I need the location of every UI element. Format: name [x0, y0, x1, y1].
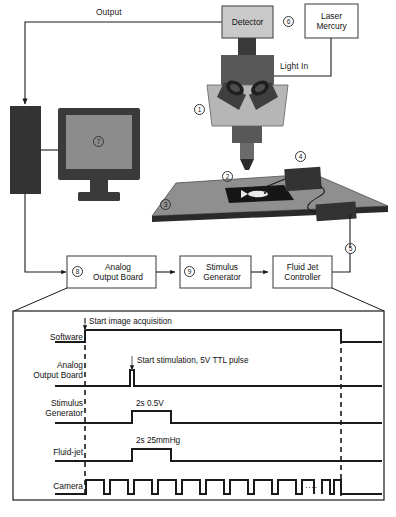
callout-number-3: 3: [160, 199, 171, 210]
timing-row-label-stimulus-generator: Stimulus Generator: [3, 399, 83, 419]
callout-number-1: 1: [194, 104, 205, 115]
timing-row-label-fluid-jet: Fluid-jet: [3, 448, 83, 458]
laser-mercury-box: [305, 4, 358, 38]
callout-wedge: [14, 288, 384, 311]
figure-canvas: Output Detector 6 Laser Mercury Light In…: [0, 0, 396, 517]
callout-number-8: 8: [72, 266, 83, 277]
annotation-stimulus-amplitude: 2s 0.5V: [136, 399, 164, 408]
annotation-start-image-acquisition: Start image acquisition: [89, 317, 172, 326]
light-in-label: Light In: [280, 62, 308, 72]
callout-number-2: 2: [222, 171, 233, 182]
callout-number-4: 4: [295, 151, 306, 162]
monitor: [58, 108, 140, 201]
annotation-fluid-jet-amplitude: 2s 25mmHg: [136, 436, 180, 445]
microscope-assembly: [207, 38, 288, 170]
detector-box: [222, 6, 273, 38]
timing-row-label-software: Software: [3, 333, 83, 343]
computer-tower: [10, 106, 66, 272]
flow-box-fluid-jet-controller: [273, 256, 332, 288]
output-label: Output: [96, 8, 176, 18]
callout-number-5: 5: [345, 243, 356, 254]
callout-number-6: 6: [283, 16, 294, 27]
annotation-camera-ellipsis: ....: [305, 481, 318, 490]
callout-number-9: 9: [184, 266, 195, 277]
annotation-start-stimulation: Start stimulation, 5V TTL pulse: [137, 356, 249, 365]
callout-number-7: 7: [93, 136, 104, 147]
diagram-svg: [0, 0, 396, 517]
timing-row-label-analog-output-board: Analog Output Board: [3, 361, 83, 381]
timing-row-label-camera: Camera: [3, 482, 83, 492]
output-wire: [25, 22, 222, 104]
